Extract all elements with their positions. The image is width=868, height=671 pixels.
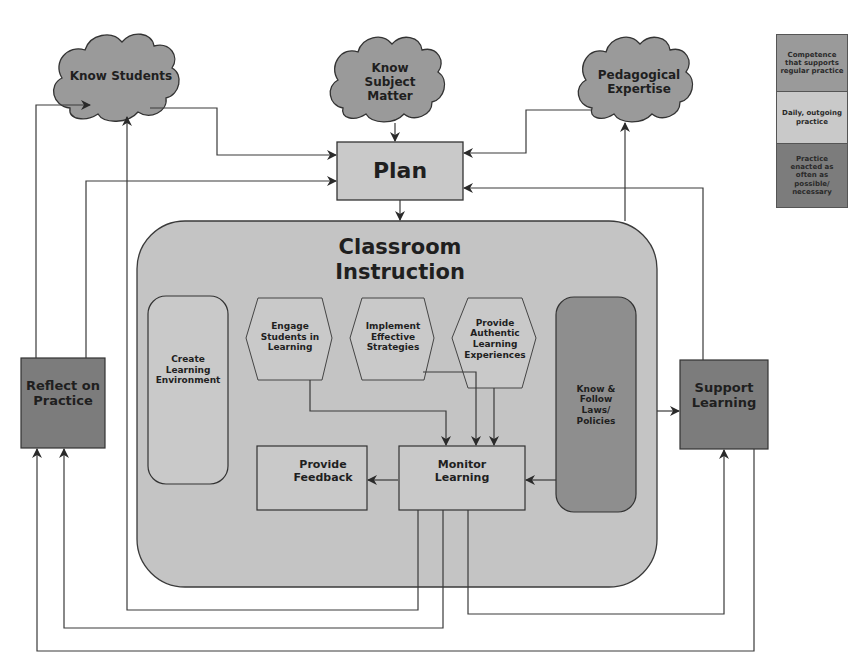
- classroom-title: Classroom Instruction: [320, 234, 480, 286]
- engage-label: Engage Students in Learning: [256, 312, 324, 362]
- legend: Competence that supports regular practic…: [776, 34, 848, 208]
- cloud-label-know-subject: Know Subject Matter: [344, 62, 436, 102]
- plan-label: Plan: [337, 142, 463, 200]
- reflect-label: Reflect on Practice: [21, 370, 105, 416]
- legend-enacted: Practice enacted as often as possible/ n…: [777, 143, 847, 207]
- legend-daily: Daily, outgoing practice: [777, 91, 847, 143]
- cloud-label-know-students: Know Students: [66, 64, 176, 88]
- authentic-label: Provide Authentic Learning Experiences: [456, 306, 534, 372]
- cloud-label-pedagogical: Pedagogical Expertise: [593, 62, 685, 102]
- create-environment-label: Create Learning Environment: [150, 340, 226, 400]
- feedback-label: Provide Feedback: [283, 452, 363, 492]
- legend-competence: Competence that supports regular practic…: [777, 35, 847, 91]
- implement-label: Implement Effective Strategies: [358, 312, 428, 362]
- monitor-label: Monitor Learning: [409, 452, 515, 492]
- laws-label: Know & Follow Laws/ Policies: [566, 370, 626, 440]
- support-label: Support Learning: [680, 372, 768, 418]
